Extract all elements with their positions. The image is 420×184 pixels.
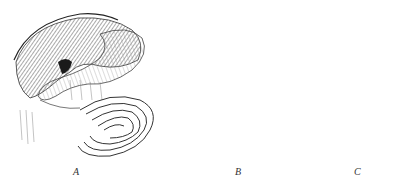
panel-label-a: A [73, 166, 79, 177]
panel-a-drawing [14, 14, 153, 157]
anatomical-illustration [0, 0, 420, 184]
panel-label-c: C [354, 166, 361, 177]
panel-label-b: B [235, 166, 241, 177]
